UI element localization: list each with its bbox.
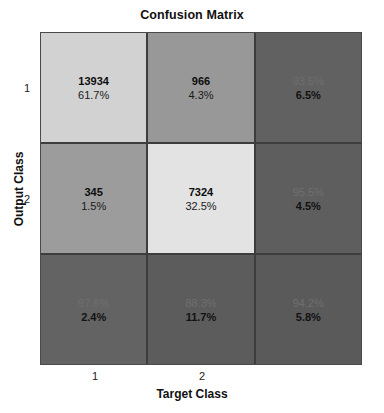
y-axis-tick-1: 1 [20, 82, 34, 94]
cell-percent: 61.7% [78, 88, 109, 102]
cell-percent: 4.3% [188, 88, 213, 102]
x-axis-tick-1: 1 [85, 370, 105, 382]
matrix-col-summary-2: 88.3% 11.7% [148, 255, 253, 364]
matrix-col-summary-1: 97.6% 2.4% [41, 255, 146, 364]
overall-error-percent: 5.8% [296, 310, 321, 324]
recall-percent: 97.6% [78, 296, 109, 310]
x-axis-label: Target Class [0, 387, 384, 401]
overall-accuracy-percent: 94.2% [293, 296, 324, 310]
error-percent: 4.5% [296, 199, 321, 213]
page-title: Confusion Matrix [0, 8, 384, 22]
matrix-row-summary-1: 93.5% 6.5% [256, 33, 361, 142]
cell-count: 7324 [189, 185, 213, 199]
confusion-matrix-grid: 13934 61.7% 966 4.3% 93.5% 6.5% 345 1.5%… [40, 32, 362, 365]
error-percent: 6.5% [296, 88, 321, 102]
error-percent: 11.7% [186, 310, 217, 324]
matrix-cell-1-2: 966 4.3% [148, 33, 253, 142]
matrix-overall-accuracy: 94.2% 5.8% [256, 255, 361, 364]
cell-count: 345 [84, 185, 102, 199]
cell-percent: 1.5% [81, 199, 106, 213]
recall-percent: 88.3% [185, 296, 216, 310]
precision-percent: 93.5% [293, 74, 324, 88]
matrix-cell-2-2: 7324 32.5% [148, 144, 253, 253]
y-axis-label: Output Class [12, 119, 26, 259]
cell-percent: 32.5% [185, 199, 216, 213]
cell-count: 13934 [78, 74, 109, 88]
matrix-cell-1-1: 13934 61.7% [41, 33, 146, 142]
error-percent: 2.4% [81, 310, 106, 324]
x-axis-tick-2: 2 [192, 370, 212, 382]
matrix-cell-2-1: 345 1.5% [41, 144, 146, 253]
precision-percent: 95.5% [293, 185, 324, 199]
cell-count: 966 [192, 74, 210, 88]
matrix-row-summary-2: 95.5% 4.5% [256, 144, 361, 253]
